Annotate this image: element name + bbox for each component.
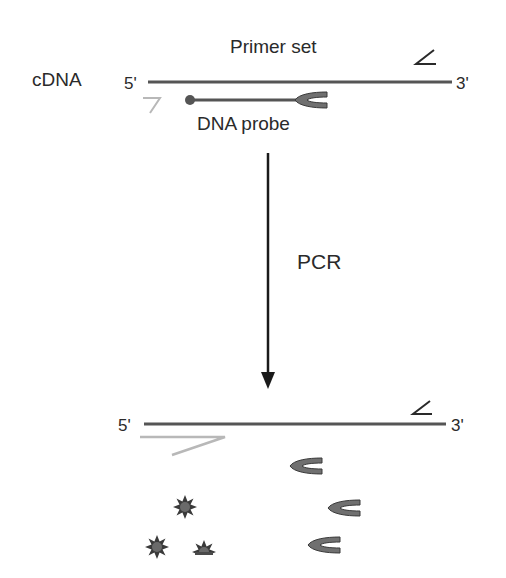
reporter-fluorescence-icon [173,495,197,519]
reporter-fluorescence-icon [192,540,216,564]
three-prime-bottom-label: 3' [451,416,464,436]
forward-primer-icon [143,98,160,113]
pcr-label: PCR [297,250,341,274]
five-prime-bottom-label: 5' [118,416,131,436]
extended-primer-icon [140,437,225,455]
cdna-label: cDNA [32,69,82,91]
dna-probe-label: DNA probe [197,113,290,135]
cleaved-quencher-icon [308,537,340,553]
dna-probe-icon [185,92,327,108]
three-prime-top-label: 3' [456,74,469,94]
cleaved-quencher-icon [290,458,322,474]
reporter-fluorescence-icon [145,535,169,559]
five-prime-top-label: 5' [124,74,137,94]
pcr-arrow-icon [261,153,275,389]
primer-set-label: Primer set [230,36,317,58]
cleaved-quencher-icon [328,500,360,516]
reverse-primer-bottom-icon [413,401,432,414]
reverse-primer-icon [416,50,436,64]
